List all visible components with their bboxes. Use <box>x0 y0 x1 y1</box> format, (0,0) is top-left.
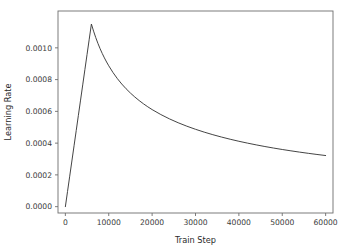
y-tick-label: 0.0010 <box>25 44 52 53</box>
y-axis-title: Learning Rate <box>3 84 13 141</box>
axes-background <box>58 11 333 213</box>
x-tick-label: 40000 <box>227 218 251 227</box>
y-tick-label: 0.0004 <box>25 139 52 148</box>
x-tick-label: 0 <box>63 218 68 227</box>
x-tick-label: 60000 <box>314 218 338 227</box>
y-tick-label: 0.0002 <box>25 171 52 180</box>
y-tick-label: 0.0008 <box>25 75 52 84</box>
x-axis-title: Train Step <box>174 235 216 245</box>
x-tick-label: 50000 <box>270 218 294 227</box>
matplotlib-figure: 0100002000030000400005000060000 0.00000.… <box>0 0 342 251</box>
y-tick-label: 0.0006 <box>25 107 52 116</box>
x-tick-label: 30000 <box>183 218 207 227</box>
learning-rate-plot: 0100002000030000400005000060000 0.00000.… <box>0 0 342 251</box>
x-tick-label: 10000 <box>97 218 121 227</box>
y-tick-label: 0.0000 <box>25 202 52 211</box>
x-tick-label: 20000 <box>140 218 164 227</box>
